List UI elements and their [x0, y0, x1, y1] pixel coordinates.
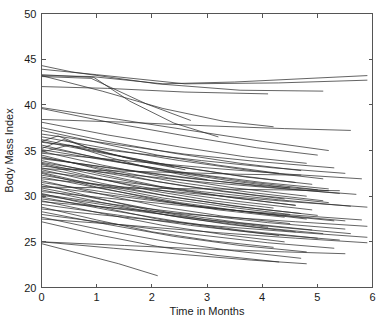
x-tick-label: 6	[369, 291, 375, 303]
bmi-trajectory-figure: 012345620253035404550Time in MonthsBody …	[0, 0, 387, 327]
chart-canvas: 012345620253035404550Time in MonthsBody …	[0, 0, 387, 327]
y-tick-label: 45	[24, 53, 36, 65]
trajectory-line	[42, 119, 351, 130]
x-axis-title: Time in Months	[170, 305, 245, 317]
trajectory-line	[42, 193, 279, 235]
series-group	[42, 66, 367, 276]
y-tick-label: 40	[24, 99, 36, 111]
trajectory-line	[42, 108, 329, 151]
x-tick-label: 1	[94, 291, 100, 303]
trajectory-line	[42, 130, 279, 173]
x-tick-label: 4	[259, 291, 265, 303]
x-tick-label: 5	[314, 291, 320, 303]
trajectory-line	[42, 244, 158, 276]
trajectory-line	[42, 134, 334, 168]
y-axis-title: Body Mass Index	[3, 108, 15, 193]
y-tick-label: 20	[24, 282, 36, 294]
y-tick-label: 50	[24, 8, 36, 20]
y-tick-label: 25	[24, 236, 36, 248]
x-tick-label: 2	[149, 291, 155, 303]
trajectory-line	[42, 87, 268, 94]
trajectory-line	[42, 77, 191, 121]
y-tick-label: 30	[24, 190, 36, 202]
x-tick-label: 3	[204, 291, 210, 303]
trajectory-line	[42, 217, 301, 258]
y-tick-label: 35	[24, 145, 36, 157]
x-tick-label: 0	[38, 291, 44, 303]
